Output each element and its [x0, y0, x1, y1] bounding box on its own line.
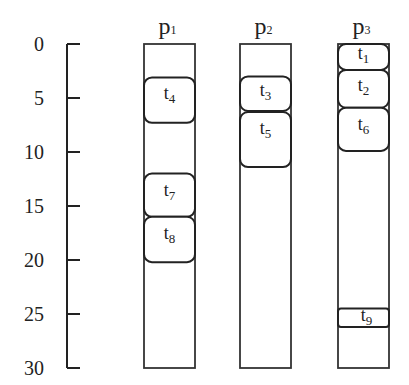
axis-tick-label: 0: [34, 33, 44, 55]
time-axis: 051015202530: [24, 33, 80, 379]
axis-tick-label: 5: [34, 87, 44, 109]
processor-p1: p1t4t7t8: [144, 13, 195, 368]
processor-label: p3: [353, 13, 371, 39]
processor-p2: p2t3t5: [240, 13, 291, 368]
axis-tick-label: 15: [24, 195, 44, 217]
axis-tick-label: 20: [24, 249, 44, 271]
axis-tick-label: 30: [24, 357, 44, 379]
processor-p3: p3t1t2t6t9: [338, 13, 389, 368]
processor-label: p2: [255, 13, 273, 39]
axis-tick-label: 10: [24, 141, 44, 163]
schedule-diagram: 051015202530 p1t4t7t8p2t3t5p3t1t2t6t9: [0, 0, 409, 385]
processor-label: p1: [159, 13, 177, 39]
processor-columns: p1t4t7t8p2t3t5p3t1t2t6t9: [144, 13, 389, 368]
axis-tick-label: 25: [24, 303, 44, 325]
